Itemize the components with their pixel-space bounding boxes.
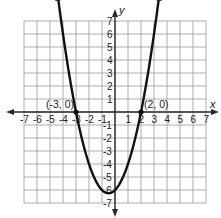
y-tick-label: -3: [103, 146, 112, 157]
y-axis-arrow-up-icon: [112, 9, 118, 17]
y-tick-label: -4: [103, 159, 112, 170]
x-tick-label: 1: [126, 114, 132, 125]
x-tick-label: 5: [178, 114, 184, 125]
x-tick-label: 4: [165, 114, 171, 125]
y-tick-label: 1: [107, 94, 113, 105]
y-tick-label: -2: [103, 133, 112, 144]
x-axis-arrow-left-icon: [6, 109, 14, 115]
y-tick-label: 5: [107, 42, 113, 53]
point-label-left: (-3, 0): [46, 98, 74, 110]
x-tick-label: -4: [59, 114, 68, 125]
intercept-point: [138, 109, 143, 114]
y-tick-label: 7: [107, 16, 113, 27]
x-tick-label: -7: [20, 114, 29, 125]
y-tick-label: 6: [107, 29, 113, 40]
y-axis-arrow-down-icon: [112, 209, 118, 217]
intercept-point: [73, 109, 78, 114]
y-tick-label: 2: [107, 81, 113, 92]
y-tick-label: 3: [107, 68, 113, 79]
curve-arrows: [55, 0, 161, 1]
x-tick-label: -5: [46, 114, 55, 125]
y-tick-label: -1: [103, 120, 112, 131]
x-tick-label: 6: [191, 114, 197, 125]
x-tick-label: -6: [33, 114, 42, 125]
x-tick-label: 3: [152, 114, 158, 125]
y-tick-label: -5: [103, 172, 112, 183]
y-tick-label: -7: [103, 198, 112, 209]
x-axis-label: x: [209, 98, 216, 110]
x-tick-label: -2: [85, 114, 94, 125]
x-tick-label: 7: [204, 114, 210, 125]
point-label-right: (2, 0): [144, 98, 169, 110]
axes: [6, 9, 219, 217]
coordinate-plane: -7-6-5-4-3-2-11234567-7-6-5-4-3-2-112345…: [0, 0, 221, 218]
y-tick-label: 4: [107, 55, 113, 66]
y-axis-label: y: [118, 4, 126, 16]
